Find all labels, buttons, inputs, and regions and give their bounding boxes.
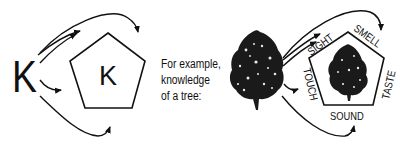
- right-tree-group: SIGHT SMELL TASTE SOUND TOUCH: [230, 11, 398, 136]
- left-k-group: K K: [12, 14, 145, 136]
- arrow-icon: [284, 84, 298, 90]
- label-touch: TOUCH: [301, 67, 320, 102]
- arrow-icon: [40, 96, 110, 136]
- left-arrows: [38, 14, 138, 136]
- inner-k-letter: K: [99, 61, 117, 91]
- inner-tree-icon: [328, 44, 367, 101]
- outer-tree-icon: [230, 30, 284, 110]
- caption-line-3: of a tree:: [161, 88, 221, 104]
- caption-line-2: knowledge: [161, 72, 221, 88]
- label-sound: SOUND: [330, 110, 364, 122]
- example-caption: For example, knowledge of a tree:: [161, 56, 221, 104]
- label-taste: TASTE: [380, 69, 398, 100]
- caption-line-1: For example,: [161, 56, 221, 72]
- outer-k-letter: K: [12, 52, 37, 102]
- arrow-icon: [40, 80, 61, 90]
